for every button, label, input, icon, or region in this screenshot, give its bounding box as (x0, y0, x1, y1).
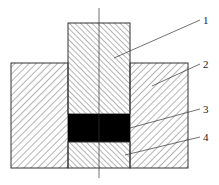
cross-section-diagram: 1 2 3 4 (0, 0, 219, 185)
label-part-2: 2 (203, 58, 209, 70)
label-part-1: 1 (203, 14, 209, 26)
label-part-4: 4 (203, 131, 209, 143)
label-part-3: 3 (203, 103, 209, 115)
